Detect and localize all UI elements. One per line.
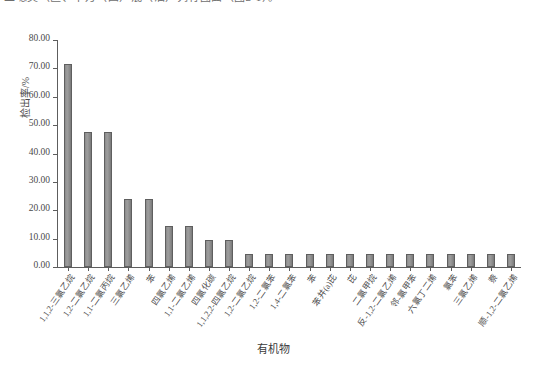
x-axis-category-text: 萘 [487, 271, 500, 285]
bar-slot [320, 40, 340, 267]
y-axis-tick-label: 10.00 [29, 232, 50, 242]
x-axis-title: 有机物 [0, 340, 546, 356]
bar[interactable] [64, 64, 72, 267]
bar[interactable] [366, 254, 374, 268]
y-axis-tick-label: 30.00 [29, 175, 50, 185]
y-axis-tick-label: 0.00 [33, 260, 50, 270]
bar-slot [340, 40, 360, 267]
figure-caption-text: 二噁英（区、十万（四）混（油）列有图面（图2-1）。 [0, 0, 546, 4]
bar-slot [159, 40, 179, 267]
y-axis-tick-mark [53, 68, 57, 69]
bar-slot [199, 40, 219, 267]
bar-slot [300, 40, 320, 267]
bar-slot [360, 40, 380, 267]
y-axis-tick-label: 20.00 [29, 203, 50, 213]
y-axis-tick-mark [53, 267, 57, 268]
x-axis-category-text: 氯苯 [442, 271, 461, 292]
x-axis-category-text: 芘 [347, 271, 360, 285]
bar-slot [179, 40, 199, 267]
y-axis-tick-mark [53, 154, 57, 155]
y-axis-tick-mark [53, 210, 57, 211]
y-axis-tick-mark [53, 40, 57, 41]
bar-slot [78, 40, 98, 267]
y-axis-tick-label: 50.00 [29, 118, 50, 128]
y-axis-tick-mark [53, 182, 57, 183]
y-axis-title: 检出率/% [17, 77, 32, 118]
x-axis-category-text: 苯 [306, 271, 319, 285]
bar-slot [380, 40, 400, 267]
y-axis-tick-label: 70.00 [29, 61, 50, 71]
bar-chart-figure: 0.0010.0020.0030.0040.0050.0060.0070.008… [0, 14, 546, 370]
bar[interactable] [165, 226, 173, 267]
bar-slot [400, 40, 420, 267]
bar-slot [461, 40, 481, 267]
figure-caption-strip: 二噁英（区、十万（四）混（油）列有图面（图2-1）。 [0, 0, 546, 5]
y-axis-tick-mark [53, 97, 57, 98]
y-axis-tick-label: 80.00 [29, 33, 50, 43]
bar[interactable] [507, 254, 515, 268]
bar-slot [239, 40, 259, 267]
y-axis-tick-label: 40.00 [29, 147, 50, 157]
x-axis-category-text: 顺-1,2-二氯乙烯 [478, 271, 521, 328]
bar-slot [440, 40, 460, 267]
bar-slot [58, 40, 78, 267]
x-axis-category-text: 苯 [145, 271, 158, 285]
bar-slot [501, 40, 521, 267]
bar[interactable] [326, 254, 334, 268]
y-axis-tick-mark [53, 125, 57, 126]
bar-slot [481, 40, 501, 267]
x-axis-category-labels: 1,1,2-三氯乙烷1,2-二氯乙烷1,1-二氯丙烷三氯乙烯苯四氯乙烯1,1-二… [58, 271, 521, 349]
y-axis-tick-mark [53, 239, 57, 240]
